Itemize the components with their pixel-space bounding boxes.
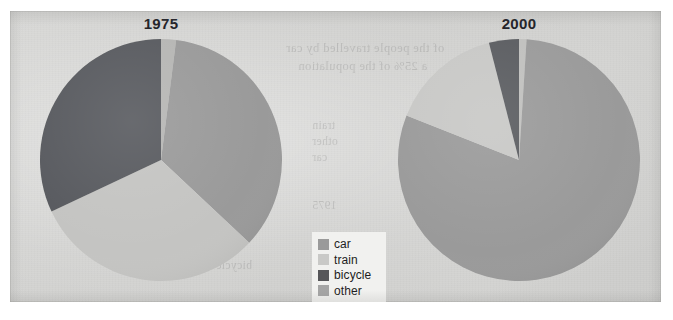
bleed-through-text-6: 1975 (312, 199, 337, 211)
scanned-figure-panel: of the people travelled by car a 25% of … (10, 11, 661, 302)
pie-chart-1975: 1975 (38, 15, 284, 279)
legend-item-other: other (318, 284, 381, 298)
legend-item-car: car (318, 237, 381, 251)
legend-item-bicycle: bicycle (318, 268, 381, 282)
screenshot-root: of the people travelled by car a 25% of … (0, 0, 673, 320)
pie-title-2000: 2000 (396, 15, 642, 32)
pie-svg-1975 (38, 37, 284, 283)
color-swatch-icon (318, 285, 329, 296)
color-swatch-icon (318, 270, 329, 281)
legend-label-car: car (334, 238, 351, 250)
pie-chart-2000: 2000 (396, 15, 642, 279)
bleed-through-text-5: car (312, 151, 327, 163)
pie-title-1975: 1975 (38, 15, 284, 32)
bleed-through-text-3: train (312, 119, 335, 131)
color-swatch-icon (318, 254, 329, 265)
legend-label-other: other (334, 285, 362, 297)
legend-item-train: train (318, 253, 381, 267)
legend-label-train: train (334, 254, 358, 266)
chart-legend: car train bicycle other (312, 232, 386, 302)
color-swatch-icon (318, 239, 329, 250)
bleed-through-text-4: other (312, 135, 338, 147)
legend-label-bicycle: bicycle (334, 269, 371, 281)
pie-svg-2000 (396, 37, 642, 283)
